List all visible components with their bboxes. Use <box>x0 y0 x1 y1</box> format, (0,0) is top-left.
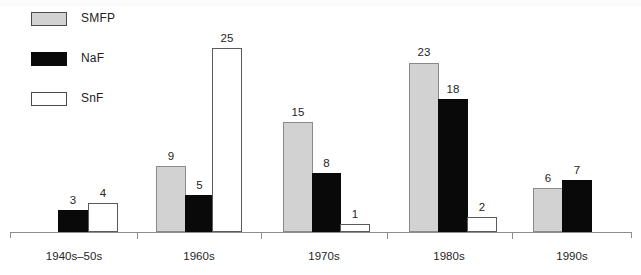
x-axis-line <box>10 232 632 233</box>
bar-1980s-smfp <box>409 63 439 232</box>
bar-1990s-smfp <box>533 188 563 232</box>
bar-value-1970s-naf: 8 <box>312 157 341 169</box>
bar-value-1980s-snf: 2 <box>467 201 497 213</box>
bar-value-1940s50s-naf: 3 <box>58 194 88 206</box>
bar-value-1940s50s-snf: 4 <box>88 187 118 199</box>
bar-value-1980s-smfp: 23 <box>409 46 439 58</box>
bar-value-1960s-smfp: 9 <box>156 150 186 162</box>
bar-value-1970s-smfp: 15 <box>283 106 313 118</box>
x-axis-label-1960s: 1960s <box>143 250 255 262</box>
bar-value-1960s-snf: 25 <box>212 32 242 44</box>
plot-area: 3 4 9 5 25 15 8 1 23 18 2 6 7 <box>0 0 641 275</box>
bar-1960s-naf <box>185 195 214 232</box>
bar-value-1980s-naf: 18 <box>438 83 468 95</box>
x-axis-label-1940s50s: 1940s–50s <box>18 250 130 262</box>
x-axis-tick-end <box>631 233 632 238</box>
x-axis-tick-1 <box>137 233 138 239</box>
bar-value-1990s-naf: 7 <box>562 164 592 176</box>
bar-1990s-naf <box>562 180 592 232</box>
x-axis-label-1970s: 1970s <box>268 250 380 262</box>
bar-chart: SMFP NaF SnF 3 4 9 5 25 15 8 1 <box>0 0 641 275</box>
bar-1970s-snf <box>340 224 370 232</box>
bar-value-1970s-snf: 1 <box>340 208 370 220</box>
bar-1970s-smfp <box>283 122 313 232</box>
x-axis-label-1980s: 1980s <box>393 250 505 262</box>
x-axis-label-1990s: 1990s <box>516 250 628 262</box>
bar-value-1990s-smfp: 6 <box>533 172 563 184</box>
bar-1970s-naf <box>312 173 341 232</box>
bar-1960s-snf <box>212 48 242 232</box>
x-axis-tick-2 <box>261 233 262 239</box>
bar-1960s-smfp <box>156 166 186 232</box>
bar-value-1960s-naf: 5 <box>185 179 214 191</box>
x-axis-tick-start <box>10 233 11 238</box>
bar-1940s50s-snf <box>88 203 118 232</box>
x-axis-tick-3 <box>387 233 388 239</box>
x-axis-tick-4 <box>512 233 513 239</box>
bar-1980s-naf <box>438 99 468 232</box>
bar-1980s-snf <box>467 217 497 232</box>
bar-1940s50s-naf <box>58 210 88 232</box>
